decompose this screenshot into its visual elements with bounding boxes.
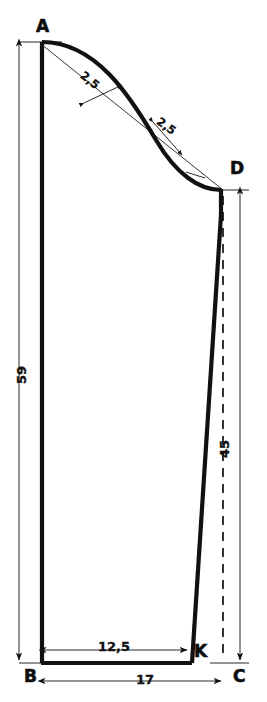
dimension-lines <box>19 45 240 681</box>
construction-chord-ad <box>41 44 223 190</box>
dimension-label-width-total: 17 <box>136 673 154 686</box>
point-label-b: B <box>24 668 36 685</box>
point-label-k: K <box>194 643 207 660</box>
extension-lines <box>19 42 249 663</box>
point-label-d: D <box>230 160 244 177</box>
drawing-sheet: A D B C K 59 45 12,5 17 2,5 2,5 <box>0 0 267 702</box>
point-label-c: C <box>233 668 245 685</box>
dimension-label-width-inner: 12,5 <box>98 640 130 653</box>
dimension-label-height-left: 59 <box>15 366 28 384</box>
pattern-outline <box>41 42 221 663</box>
offset-tick-marks <box>84 85 205 178</box>
outline-curve-ad <box>42 42 221 190</box>
pattern-drawing-svg <box>0 0 267 702</box>
point-label-a: A <box>36 18 49 35</box>
dimension-label-height-right: 45 <box>218 440 231 458</box>
outline-edge-kd <box>192 215 221 663</box>
